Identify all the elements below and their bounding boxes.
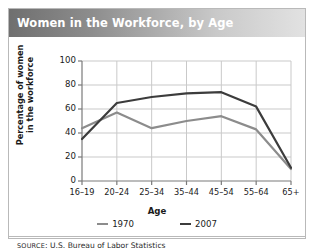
legend-item-2007: 2007	[180, 219, 217, 229]
source-label: SOURCE	[17, 242, 45, 248]
source-text: U.S. Bureau of Labor Statistics	[50, 241, 165, 248]
y-tick-label: 20	[54, 151, 76, 161]
y-tick-label: 100	[54, 55, 76, 65]
legend-line-icon	[180, 223, 191, 226]
source-divider	[9, 236, 305, 237]
chart-body: Percentage of women in the workforce 020…	[9, 37, 305, 238]
legend-label: 2007	[195, 219, 217, 229]
legend-line-icon	[97, 223, 108, 226]
chart-figure: Women in the Workforce, by Age Percentag…	[8, 8, 306, 239]
y-tick-label: 80	[54, 79, 76, 89]
page-title: Women in the Workforce, by Age	[17, 16, 234, 30]
x-axis-title: Age	[9, 206, 305, 216]
chart-legend: 19702007	[9, 219, 305, 229]
chart-title-bar: Women in the Workforce, by Age	[9, 9, 305, 37]
x-tick-label: 65+	[271, 187, 311, 197]
tick-marks	[78, 61, 291, 185]
legend-label: 1970	[112, 219, 134, 229]
legend-item-1970: 1970	[97, 219, 134, 229]
y-tick-label: 0	[54, 175, 76, 185]
source-note: SOURCE: U.S. Bureau of Labor Statistics	[17, 241, 166, 248]
y-tick-label: 40	[54, 127, 76, 137]
y-tick-label: 60	[54, 103, 76, 113]
